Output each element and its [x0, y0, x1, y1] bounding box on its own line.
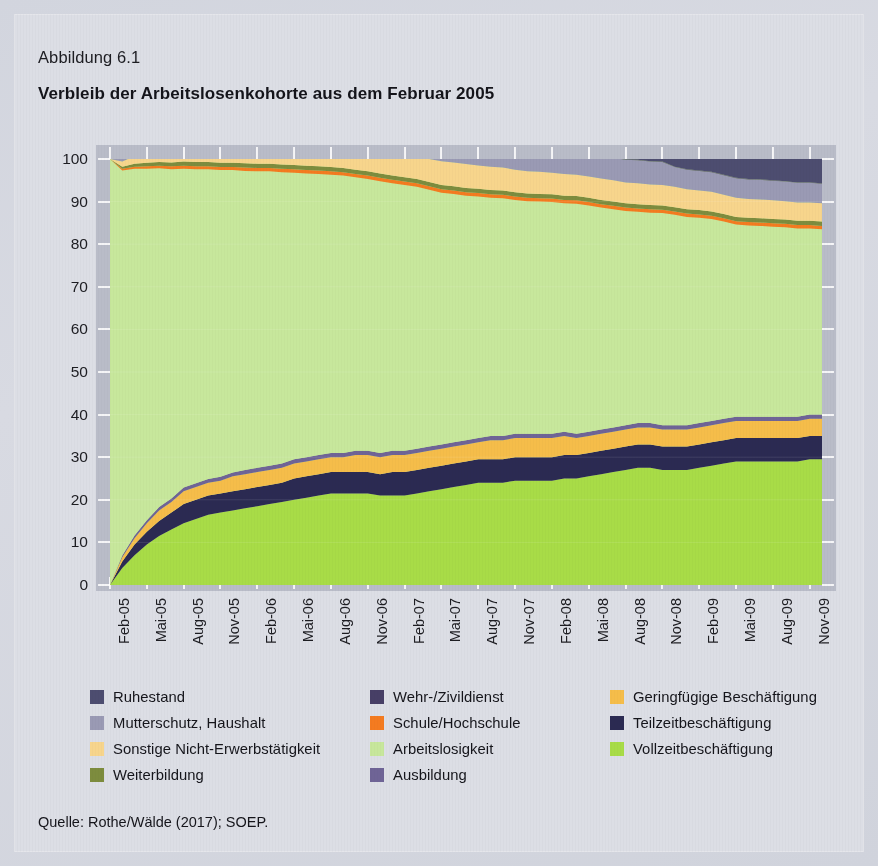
- legend-swatch-icon: [90, 768, 104, 782]
- figure-title: Verbleib der Arbeitslosenkohorte aus dem…: [38, 84, 494, 104]
- x-axis: Feb-05Mai-05Aug-05Nov-05Feb-06Mai-06Aug-…: [96, 594, 836, 694]
- y-tick-mark: [822, 328, 834, 330]
- y-tick-mark: [822, 499, 834, 501]
- legend-label: Schule/Hochschule: [393, 715, 521, 731]
- y-tick-mark: [822, 201, 834, 203]
- y-tick-mark: [822, 456, 834, 458]
- x-tick-label: Aug-08: [632, 598, 648, 645]
- legend-swatch-icon: [90, 742, 104, 756]
- x-tick-mark: [293, 147, 295, 159]
- stacked-area-chart: [110, 159, 822, 585]
- y-tick-label: 0: [44, 576, 88, 594]
- chart-svg: [110, 159, 822, 585]
- y-tick-mark: [98, 541, 110, 543]
- x-tick-label: Aug-07: [484, 598, 500, 645]
- legend-item[interactable]: Mutterschutz, Haushalt: [90, 712, 265, 734]
- x-tick-label: Feb-05: [116, 598, 132, 644]
- chart-plot-area: [96, 145, 836, 591]
- legend-item[interactable]: Geringfügige Beschäftigung: [610, 686, 817, 708]
- y-tick-mark: [98, 201, 110, 203]
- x-tick-label: Aug-09: [779, 598, 795, 645]
- legend-label: Ausbildung: [393, 767, 467, 783]
- figure-panel: Abbildung 6.1 Verbleib der Arbeitslosenk…: [14, 14, 864, 852]
- legend-label: Weiterbildung: [113, 767, 204, 783]
- legend-swatch-icon: [90, 716, 104, 730]
- x-tick-label: Mai-08: [595, 598, 611, 642]
- figure-page: Abbildung 6.1 Verbleib der Arbeitslosenk…: [0, 0, 878, 866]
- y-tick-label: 70: [44, 278, 88, 296]
- x-tick-label: Feb-06: [263, 598, 279, 644]
- x-tick-mark: [367, 147, 369, 159]
- x-tick-label: Mai-07: [447, 598, 463, 642]
- y-tick-mark: [822, 414, 834, 416]
- x-tick-mark: [256, 147, 258, 159]
- x-tick-mark: [404, 147, 406, 159]
- legend-item[interactable]: Ruhestand: [90, 686, 185, 708]
- y-tick-label: 10: [44, 533, 88, 551]
- x-tick-label: Aug-05: [190, 598, 206, 645]
- legend-item[interactable]: Teilzeitbeschäftigung: [610, 712, 771, 734]
- y-tick-mark: [98, 286, 110, 288]
- y-tick-mark: [822, 158, 834, 160]
- x-tick-label: Feb-08: [558, 598, 574, 644]
- legend-swatch-icon: [370, 690, 384, 704]
- x-tick-mark: [551, 147, 553, 159]
- y-tick-mark: [98, 414, 110, 416]
- x-tick-label: Nov-08: [668, 598, 684, 645]
- legend-label: Geringfügige Beschäftigung: [633, 689, 817, 705]
- x-tick-label: Aug-06: [337, 598, 353, 645]
- legend-item[interactable]: Sonstige Nicht-Erwerbstätigkeit: [90, 738, 320, 760]
- x-tick-mark: [514, 147, 516, 159]
- legend-label: Wehr-/Zivildienst: [393, 689, 504, 705]
- x-tick-mark: [661, 147, 663, 159]
- legend-label: Teilzeitbeschäftigung: [633, 715, 771, 731]
- y-tick-mark: [98, 499, 110, 501]
- x-tick-label: Feb-07: [411, 598, 427, 644]
- x-tick-label: Nov-07: [521, 598, 537, 645]
- x-tick-mark: [219, 147, 221, 159]
- y-tick-label: 50: [44, 363, 88, 381]
- y-tick-mark: [98, 456, 110, 458]
- legend-item[interactable]: Weiterbildung: [90, 764, 204, 786]
- legend-swatch-icon: [370, 716, 384, 730]
- x-tick-mark: [772, 147, 774, 159]
- legend-item[interactable]: Ausbildung: [370, 764, 467, 786]
- y-tick-label: 60: [44, 320, 88, 338]
- legend-swatch-icon: [610, 716, 624, 730]
- figure-number: Abbildung 6.1: [38, 48, 140, 67]
- y-tick-label: 40: [44, 406, 88, 424]
- x-tick-mark: [698, 147, 700, 159]
- legend-swatch-icon: [370, 768, 384, 782]
- x-tick-mark: [330, 147, 332, 159]
- y-tick-mark: [98, 328, 110, 330]
- legend-label: Mutterschutz, Haushalt: [113, 715, 265, 731]
- legend-item[interactable]: Wehr-/Zivildienst: [370, 686, 504, 708]
- x-tick-label: Mai-09: [742, 598, 758, 642]
- y-tick-label: 20: [44, 491, 88, 509]
- y-tick-mark: [822, 541, 834, 543]
- figure-source: Quelle: Rothe/Wälde (2017); SOEP.: [38, 814, 268, 830]
- x-tick-label: Nov-06: [374, 598, 390, 645]
- y-tick-label: 80: [44, 235, 88, 253]
- legend-swatch-icon: [610, 690, 624, 704]
- legend-label: Vollzeitbeschäftigung: [633, 741, 773, 757]
- x-tick-mark: [809, 147, 811, 159]
- y-tick-mark: [98, 371, 110, 373]
- legend-swatch-icon: [370, 742, 384, 756]
- x-tick-mark: [109, 147, 111, 159]
- chart-legend: RuhestandMutterschutz, HaushaltSonstige …: [90, 686, 860, 794]
- x-tick-mark: [440, 147, 442, 159]
- x-tick-label: Feb-09: [705, 598, 721, 644]
- y-tick-mark: [822, 584, 834, 586]
- legend-item[interactable]: Schule/Hochschule: [370, 712, 521, 734]
- y-tick-label: 30: [44, 448, 88, 466]
- x-tick-label: Nov-05: [226, 598, 242, 645]
- x-tick-mark: [588, 147, 590, 159]
- legend-swatch-icon: [610, 742, 624, 756]
- y-tick-mark: [98, 243, 110, 245]
- y-tick-mark: [822, 286, 834, 288]
- y-tick-mark: [822, 243, 834, 245]
- legend-item[interactable]: Vollzeitbeschäftigung: [610, 738, 773, 760]
- legend-item[interactable]: Arbeitslosigkeit: [370, 738, 493, 760]
- legend-swatch-icon: [90, 690, 104, 704]
